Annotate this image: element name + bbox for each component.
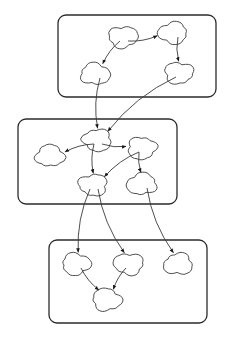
edge-j-to-m [81, 268, 99, 290]
cloud-node-m [93, 288, 123, 311]
cloud-node-f [34, 144, 66, 166]
cloud-node-h [78, 174, 107, 196]
cloud-node-l [163, 252, 192, 274]
edge-d-to-e [108, 77, 176, 131]
cloud-node-g [128, 137, 158, 160]
cloud-node-k [113, 254, 143, 276]
cloud-node-d [165, 62, 194, 84]
cloud-graph-diagram [0, 0, 226, 337]
edge-i-to-l [147, 188, 173, 253]
group-box-top [58, 15, 216, 97]
cloud-node-a [109, 27, 139, 49]
cloud-node-j [63, 252, 92, 275]
cloud-node-i [126, 172, 157, 195]
edge-h-to-j [78, 189, 90, 252]
group-boxes [18, 15, 216, 323]
cloud-node-e [81, 129, 111, 152]
edge-c-to-e [96, 78, 100, 128]
cloud-node-b [157, 21, 186, 44]
cloud-node-c [80, 62, 110, 84]
edge-h-to-k [98, 189, 124, 253]
